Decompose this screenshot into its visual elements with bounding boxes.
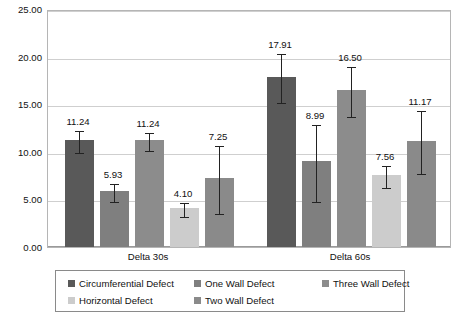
error-bar-cap-bottom — [347, 117, 356, 118]
legend-swatch-icon — [194, 297, 201, 304]
error-bar — [114, 184, 115, 202]
error-bar-cap-bottom — [145, 151, 154, 152]
bar-value-label: 5.93 — [93, 170, 133, 180]
legend-swatch-icon — [68, 280, 75, 287]
error-bar-cap-top — [347, 67, 356, 68]
y-axis-tick-label: 25.00 — [0, 5, 42, 15]
error-bar-cap-top — [312, 125, 321, 126]
legend-item[interactable]: Circumferential Defect — [68, 279, 174, 289]
legend-item[interactable]: Two Wall Defect — [194, 296, 274, 306]
bar-value-label: 16.50 — [330, 53, 370, 63]
y-axis-tick-label: 15.00 — [0, 100, 42, 110]
y-axis-tick-label: 5.00 — [0, 195, 42, 205]
error-bar-cap-top — [110, 184, 119, 185]
legend-label: Two Wall Defect — [205, 296, 274, 306]
error-bar-cap-top — [75, 131, 84, 132]
error-bar — [386, 166, 387, 189]
error-bar — [219, 146, 220, 214]
error-bar-cap-bottom — [417, 174, 426, 175]
legend-item[interactable]: Three Wall Defect — [322, 279, 409, 289]
bar — [65, 140, 94, 247]
legend-swatch-icon — [322, 280, 329, 287]
legend-swatch-icon — [194, 280, 201, 287]
bar-value-label: 17.91 — [260, 40, 300, 50]
bar-value-label: 11.24 — [128, 119, 168, 129]
bar-value-label: 7.56 — [365, 152, 405, 162]
error-bar-cap-top — [215, 146, 224, 147]
error-bar — [149, 133, 150, 151]
legend-label: Horizontal Defect — [79, 296, 153, 306]
error-bar — [281, 54, 282, 103]
bar-value-label: 7.25 — [198, 132, 238, 142]
y-axis-tick-label: 10.00 — [0, 148, 42, 158]
error-bar — [184, 203, 185, 216]
legend-swatch-icon — [68, 297, 75, 304]
bar-value-label: 8.99 — [295, 111, 335, 121]
y-axis-tick-label: 20.00 — [0, 53, 42, 63]
error-bar-cap-bottom — [215, 214, 224, 215]
error-bar — [79, 131, 80, 153]
error-bar-cap-bottom — [277, 103, 286, 104]
category-label: Delta 60s — [300, 251, 400, 262]
legend: Circumferential DefectOne Wall DefectThr… — [55, 270, 405, 312]
error-bar — [421, 111, 422, 174]
bar-chart: 0.005.0010.0015.0020.0025.00 Delta 30sDe… — [0, 0, 460, 321]
error-bar-cap-top — [145, 133, 154, 134]
bar-value-label: 4.10 — [163, 189, 203, 199]
error-bar-cap-top — [417, 111, 426, 112]
legend-row: Circumferential DefectOne Wall DefectThr… — [62, 275, 398, 292]
error-bar-cap-bottom — [312, 202, 321, 203]
legend-row: Horizontal DefectTwo Wall Defect — [62, 292, 398, 309]
error-bar-cap-top — [277, 54, 286, 55]
error-bar — [316, 125, 317, 202]
bar-value-label: 11.24 — [58, 117, 98, 127]
plot-area — [47, 10, 451, 248]
bar — [135, 140, 164, 247]
bar-value-label: 11.17 — [400, 97, 440, 107]
error-bar-cap-bottom — [180, 217, 189, 218]
error-bar — [351, 67, 352, 117]
legend-label: One Wall Defect — [205, 279, 275, 289]
y-axis-tick-label: 0.00 — [0, 243, 42, 253]
error-bar-cap-bottom — [110, 202, 119, 203]
error-bar-cap-bottom — [382, 188, 391, 189]
category-label: Delta 30s — [98, 251, 198, 262]
bars-layer — [48, 11, 450, 247]
legend-label: Circumferential Defect — [79, 279, 174, 289]
error-bar-cap-top — [382, 166, 391, 167]
error-bar-cap-bottom — [75, 153, 84, 154]
error-bar-cap-top — [180, 203, 189, 204]
legend-item[interactable]: Horizontal Defect — [68, 296, 153, 306]
legend-label: Three Wall Defect — [333, 279, 409, 289]
legend-item[interactable]: One Wall Defect — [194, 279, 275, 289]
